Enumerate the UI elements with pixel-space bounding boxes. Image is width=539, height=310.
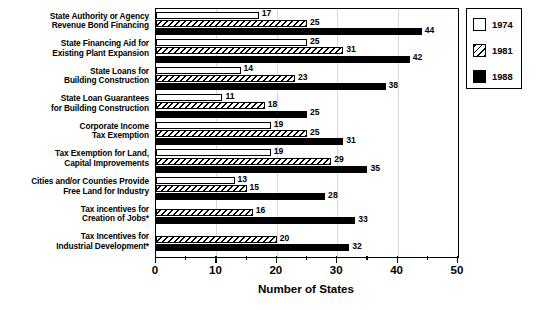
bar-value-label: 23 — [298, 73, 308, 82]
bar-1974-cat0 — [156, 12, 259, 19]
legend-item-1981[interactable]: 1981 — [473, 44, 519, 58]
bar-value-label: 25 — [310, 108, 320, 117]
bar-value-label: 28 — [328, 191, 338, 200]
gridline — [398, 9, 399, 257]
bar-value-label: 20 — [280, 234, 290, 243]
category-label: State Loans forBuilding Construction — [0, 67, 149, 86]
bar-value-label: 35 — [370, 164, 380, 173]
bar-1981-cat2 — [156, 75, 295, 82]
bar-value-label: 15 — [250, 183, 260, 192]
category-label-line: Tax Exemption — [0, 131, 149, 141]
x-tick-minor — [427, 256, 428, 260]
bar-1981-cat1 — [156, 47, 343, 54]
x-axis-tick-labels: 01020304050 — [0, 264, 539, 278]
category-label: State Loan Guaranteesfor Building Constr… — [0, 94, 149, 113]
category-label-line: Revenue Bond Financing — [0, 21, 149, 31]
bar-value-label: 38 — [389, 81, 399, 90]
bar-1974-cat1 — [156, 39, 307, 46]
bar-value-label: 42 — [413, 53, 423, 62]
legend-label: 1981 — [492, 46, 513, 56]
bar-value-label: 32 — [352, 242, 362, 251]
legend-item-1974[interactable]: 1974 — [473, 18, 519, 32]
category-label-line: for Building Construction — [0, 104, 149, 114]
bar-1974-cat6 — [156, 177, 235, 184]
bar-value-label: 17 — [262, 9, 272, 18]
x-tick-minor — [366, 256, 367, 260]
x-tick-major — [155, 256, 156, 263]
bar-value-label: 14 — [244, 64, 254, 73]
category-label: Corporate IncomeTax Exemption — [0, 122, 149, 141]
bar-value-label: 31 — [346, 136, 356, 145]
x-tick-minor — [185, 256, 186, 260]
bar-1988-cat1 — [156, 56, 410, 63]
category-label: Tax Exemption for Land,Capital Improveme… — [0, 149, 149, 168]
bar-1981-cat6 — [156, 185, 247, 192]
category-label-line: Creation of Jobs* — [0, 214, 149, 224]
category-label-line: Industrial Development* — [0, 242, 149, 252]
bar-1988-cat4 — [156, 138, 343, 145]
bar-1981-cat8 — [156, 236, 277, 243]
category-axis-labels: State Authority or AgencyRevenue Bond Fi… — [0, 8, 152, 256]
x-tick-minor — [246, 256, 247, 260]
category-label-line: Existing Plant Expansion — [0, 49, 149, 59]
x-tick-label: 10 — [195, 264, 235, 276]
bar-1974-cat3 — [156, 94, 222, 101]
legend: 197419811988 — [466, 8, 522, 89]
bar-1974-cat5 — [156, 149, 271, 156]
bar-1988-cat5 — [156, 166, 367, 173]
plot-area: 1725442531421423381118251925311929351315… — [155, 8, 459, 258]
bar-value-label: 33 — [358, 215, 368, 224]
bar-value-label: 11 — [225, 92, 234, 101]
category-label: Cities and/or Counties ProvideFree Land … — [0, 177, 149, 196]
bar-value-label: 13 — [238, 175, 248, 184]
bar-value-label: 16 — [256, 206, 266, 215]
x-tick-minor — [306, 256, 307, 260]
x-tick-major — [215, 256, 216, 263]
bar-value-label: 19 — [274, 147, 284, 156]
bar-1974-cat2 — [156, 67, 241, 74]
legend-item-1988[interactable]: 1988 — [473, 70, 519, 84]
category-label-line: Capital Improvements — [0, 159, 149, 169]
x-tick-major — [397, 256, 398, 263]
bar-value-label: 31 — [346, 45, 356, 54]
legend-swatch-icon — [473, 70, 486, 83]
bar-1981-cat5 — [156, 158, 331, 165]
category-label-line: Building Construction — [0, 76, 149, 86]
x-tick-label: 50 — [437, 264, 477, 276]
x-tick-major — [336, 256, 337, 263]
bar-1988-cat2 — [156, 83, 386, 90]
bar-1988-cat8 — [156, 244, 349, 251]
x-tick-label: 40 — [377, 264, 417, 276]
category-label-line: Free Land for Industry — [0, 187, 149, 197]
bar-chart: State Authority or AgencyRevenue Bond Fi… — [0, 0, 539, 310]
legend-swatch-icon — [473, 44, 486, 57]
x-axis-ticks — [155, 256, 459, 264]
category-label: Tax incentives forCreation of Jobs* — [0, 205, 149, 224]
bar-1981-cat0 — [156, 20, 307, 27]
x-tick-major — [457, 256, 458, 263]
x-tick-major — [276, 256, 277, 263]
bar-value-label: 44 — [425, 26, 435, 35]
legend-label: 1988 — [492, 72, 513, 82]
category-label: State Financing Aid forExisting Plant Ex… — [0, 39, 149, 58]
bar-value-label: 25 — [310, 18, 320, 27]
bar-1981-cat4 — [156, 130, 307, 137]
legend-label: 1974 — [492, 20, 513, 30]
x-axis-title: Number of States — [155, 282, 457, 295]
bar-value-label: 18 — [268, 100, 278, 109]
x-tick-label: 30 — [316, 264, 356, 276]
bar-1981-cat7 — [156, 209, 253, 216]
bar-1988-cat6 — [156, 193, 325, 200]
x-tick-label: 0 — [135, 264, 175, 276]
bar-1988-cat3 — [156, 111, 307, 118]
category-label: Tax Incentives forIndustrial Development… — [0, 232, 149, 251]
bar-1981-cat3 — [156, 102, 265, 109]
legend-swatch-icon — [473, 18, 486, 31]
bar-1988-cat7 — [156, 217, 355, 224]
bar-value-label: 29 — [334, 155, 344, 164]
bar-value-label: 25 — [310, 128, 320, 137]
bar-value-label: 19 — [274, 120, 284, 129]
plot-inner: 1725442531421423381118251925311929351315… — [156, 9, 458, 257]
bar-1988-cat0 — [156, 28, 422, 35]
bar-value-label: 25 — [310, 37, 320, 46]
